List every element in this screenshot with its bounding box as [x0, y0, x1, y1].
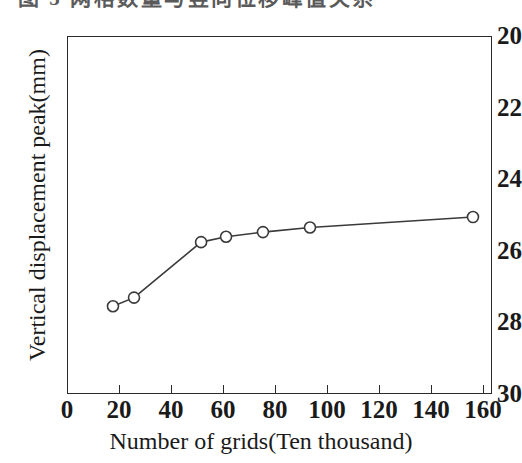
x-axis-tick-label: 160 [448, 397, 518, 422]
data-series-svg [68, 37, 493, 395]
data-point-marker [196, 237, 207, 248]
data-point-marker [221, 231, 232, 242]
data-point-marker [257, 227, 268, 238]
x-axis-tick-mark [171, 385, 172, 394]
x-axis-tick-mark [483, 385, 484, 394]
y-axis-title: Vertical displacement peak(mm) [24, 49, 50, 361]
x-axis-tick-mark [431, 385, 432, 394]
cropped-caption-strip: 图 5 网格数量与竖向位移峰值关系 [0, 0, 522, 13]
y-axis-title-container: Vertical displacement peak(mm) [22, 25, 52, 385]
plot-area [67, 36, 492, 394]
x-axis-title: Number of grids(Ten thousand) [0, 428, 522, 454]
cropped-caption-text: 图 5 网格数量与竖向位移峰值关系 [18, 0, 376, 11]
x-axis-tick-mark [379, 385, 380, 394]
data-point-marker [107, 301, 118, 312]
data-point-marker [305, 222, 316, 233]
series-markers [107, 212, 478, 312]
x-axis-tick-mark [327, 385, 328, 394]
x-axis-tick-mark [223, 385, 224, 394]
figure-container: 图 5 网格数量与竖向位移峰值关系 Vertical displacement … [0, 0, 522, 463]
data-point-marker [129, 292, 140, 303]
data-point-marker [467, 212, 478, 223]
series-line [113, 217, 473, 306]
x-axis-tick-mark [119, 385, 120, 394]
x-axis-tick-mark [275, 385, 276, 394]
